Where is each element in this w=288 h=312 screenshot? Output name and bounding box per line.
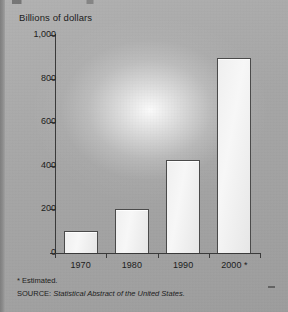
x-tick-label: 1970 — [55, 260, 106, 270]
footnote-source-label: SOURCE: — [17, 289, 51, 298]
x-tick-label: 2000 * — [209, 260, 260, 270]
bar-1980 — [115, 209, 149, 253]
y-axis-line — [55, 34, 56, 254]
y-tick-label: 0 — [12, 247, 56, 257]
footnote-source: SOURCE: Statistical Abstract of the Unit… — [17, 289, 185, 298]
x-tick-mark — [158, 253, 159, 258]
footnote-estimated: * Estimated. — [17, 276, 57, 285]
y-tick-label: 600 — [12, 116, 56, 126]
bar-1990 — [166, 160, 200, 253]
x-tick-mark — [55, 253, 56, 258]
x-tick-mark — [209, 253, 210, 258]
x-tick-label: 1980 — [106, 260, 157, 270]
bar-chart-figure: Billions of dollars 02004006008001,000 1… — [0, 0, 288, 312]
bar-2000 — [217, 58, 251, 253]
x-tick-mark — [260, 253, 261, 258]
x-tick-mark — [106, 253, 107, 258]
bar-1970 — [64, 231, 98, 253]
x-tick-label: 1990 — [158, 260, 209, 270]
y-tick-label: 200 — [12, 203, 56, 213]
plot-area: 02004006008001,000 1970198019902000 * — [0, 0, 288, 312]
y-tick-label: 800 — [12, 73, 56, 83]
y-tick-label: 400 — [12, 160, 56, 170]
y-tick-label: 1,000 — [12, 29, 56, 39]
footnote-source-text: Statistical Abstract of the United State… — [53, 289, 184, 298]
